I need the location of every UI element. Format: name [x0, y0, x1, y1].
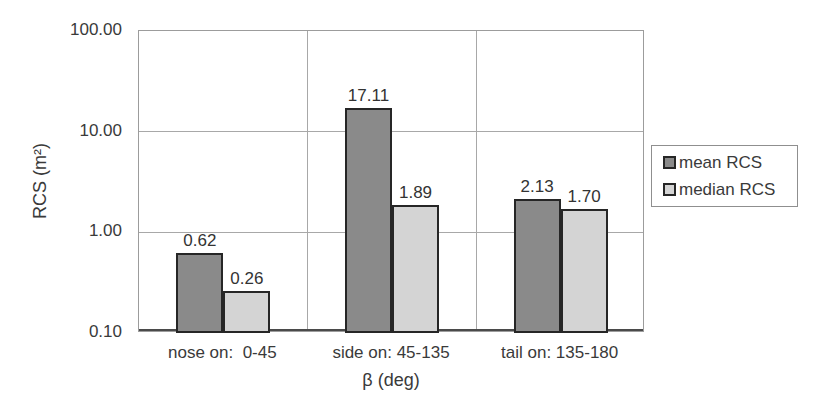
plot-area: 0.620.2617.111.892.131.70 [138, 30, 644, 332]
category-separator [307, 31, 308, 331]
legend-label-median-rcs: median RCS [679, 180, 775, 200]
x-tick-label: tail on: 135-180 [475, 343, 645, 363]
y-tick-label: 10.00 [27, 120, 122, 142]
legend-item-mean-rcs: mean RCS [663, 153, 797, 173]
bar-median-1 [223, 291, 270, 333]
bar-value-label: 0.26 [202, 269, 292, 289]
legend-label-mean-rcs: mean RCS [679, 153, 762, 173]
bar-mean-1 [176, 253, 223, 333]
x-tick-label: nose on: 0-45 [137, 343, 307, 363]
y-tick-label: 1.00 [27, 220, 122, 242]
x-tick-label: side on: 45-135 [306, 343, 476, 363]
category-separator [476, 31, 477, 331]
bar-mean-3 [514, 199, 561, 333]
legend: mean RCS median RCS [651, 145, 798, 207]
bar-value-label: 17.11 [324, 86, 414, 106]
y-axis-title: RCS (m²) [30, 143, 51, 219]
legend-item-median-rcs: median RCS [663, 180, 797, 200]
rcs-bar-chart-figure: RCS (m²) 0.620.2617.111.892.131.70 100.0… [0, 0, 827, 408]
bar-median-2 [392, 205, 439, 333]
y-tick-label: 0.10 [27, 321, 122, 343]
y-tick-label: 100.00 [27, 19, 122, 41]
bar-value-label: 1.70 [539, 187, 629, 207]
mean-rcs-swatch-icon [663, 156, 676, 169]
bar-value-label: 0.62 [155, 231, 245, 251]
bar-mean-2 [345, 108, 392, 333]
bar-median-3 [561, 209, 608, 333]
median-rcs-swatch-icon [663, 183, 676, 196]
bar-value-label: 1.89 [371, 183, 461, 203]
x-axis-title: β (deg) [138, 370, 644, 391]
